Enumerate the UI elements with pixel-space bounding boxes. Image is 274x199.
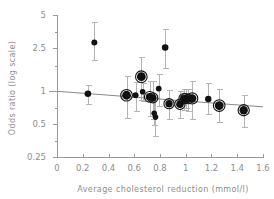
data-point-marker (165, 100, 172, 107)
scatter-plot-figure: 0.250.512.5500.20.40.60.811.21.41.6 Aver… (0, 0, 274, 199)
data-point-marker (156, 86, 162, 92)
data-point-marker (153, 114, 159, 120)
data-point-marker (91, 39, 97, 45)
y-tick-label: 1 (41, 86, 46, 96)
plot-canvas: 0.250.512.5500.20.40.60.811.21.41.6 Aver… (0, 0, 274, 199)
data-point-marker (162, 44, 169, 51)
x-axis-title: Average cholesterol reduction (mmol/l) (77, 185, 248, 194)
data-point-marker (133, 92, 139, 98)
error-bars-layer (86, 22, 248, 136)
data-point-marker (215, 101, 224, 110)
x-tick-label: 0.8 (153, 163, 167, 173)
x-tick-label: 0 (54, 163, 59, 173)
y-tick-label: 5 (41, 10, 46, 20)
data-point-marker (239, 106, 247, 114)
x-tick-label: 1 (183, 163, 188, 173)
x-tick-label: 0.2 (76, 163, 90, 173)
x-tick-label: 1.4 (230, 163, 244, 173)
x-tick-label: 1.6 (256, 163, 270, 173)
data-point-marker (140, 89, 146, 95)
y-tick-label: 0.25 (27, 152, 46, 162)
y-axis-title: Odds ratio (log scale) (8, 41, 17, 136)
data-point-marker (122, 91, 131, 100)
data-markers-layer (85, 39, 250, 119)
data-point-marker (85, 90, 92, 97)
x-tick-label: 0.6 (127, 163, 141, 173)
y-tick-label: 2.5 (32, 43, 46, 53)
data-point-marker (149, 94, 156, 101)
x-tick-label: 0.4 (102, 163, 116, 173)
data-point-marker (205, 96, 211, 102)
x-tick-label: 1.2 (205, 163, 219, 173)
data-point-marker (188, 94, 196, 102)
data-point-marker (137, 72, 146, 81)
y-tick-label: 0.5 (32, 119, 46, 129)
